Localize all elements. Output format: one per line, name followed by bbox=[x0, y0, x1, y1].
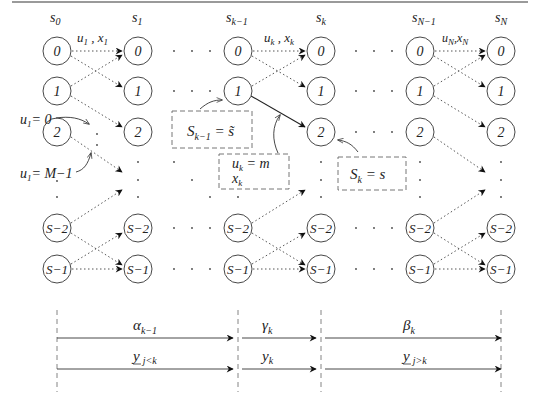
state-nodes bbox=[43, 37, 515, 283]
column-headers: s0 s1 sk−1 sk sN−1 sN bbox=[50, 10, 508, 27]
segment-labels: αk−1 γk βk yj<k yk yj>k bbox=[131, 317, 427, 366]
node-sk-0: 0 bbox=[318, 44, 325, 59]
col-header-s1: s1 bbox=[132, 10, 142, 27]
node-sN-S-1: S−1 bbox=[490, 262, 512, 277]
label-uN-xN: uN,xN bbox=[442, 31, 469, 47]
trellis-svg: s0 s1 sk−1 sk sN−1 sN u1 , x1 uk , xk uN… bbox=[0, 0, 540, 408]
node-sk-S-1: S−1 bbox=[310, 262, 332, 277]
transitions-stage-N bbox=[434, 51, 485, 269]
node-s0-0: 0 bbox=[54, 44, 61, 59]
box-state-label: Sk = s bbox=[350, 166, 386, 185]
annotation-u1-max: u1= M−1 bbox=[20, 166, 73, 183]
node-sk-1: 1 bbox=[318, 84, 325, 99]
label-y-future: yj>k bbox=[401, 348, 427, 366]
node-s1-S-1: S−1 bbox=[127, 262, 149, 277]
node-s0-1: 1 bbox=[54, 84, 61, 99]
box-prev-state-label: Sk−1 = s̃ bbox=[187, 123, 235, 142]
box-input-line2: xk bbox=[231, 171, 243, 188]
label-gamma: γk bbox=[262, 317, 273, 336]
node-sN-0: 0 bbox=[498, 44, 505, 59]
node-sN-1: 1 bbox=[498, 84, 505, 99]
col-header-s0: s0 bbox=[50, 10, 60, 27]
node-sk-S-2: S−2 bbox=[310, 221, 332, 236]
segment-dividers bbox=[57, 310, 501, 392]
node-s0-2: 2 bbox=[54, 125, 61, 140]
segment-arrows bbox=[57, 338, 501, 369]
label-alpha: αk−1 bbox=[133, 317, 157, 336]
node-s0-S-1: S−1 bbox=[46, 262, 68, 277]
node-sN-2: 2 bbox=[498, 125, 505, 140]
label-uk-xk: uk , xk bbox=[264, 30, 295, 47]
box-state-arrow bbox=[338, 140, 358, 152]
node-s1-1: 1 bbox=[135, 84, 142, 99]
label-beta: βk bbox=[402, 317, 415, 336]
node-sN-1-2: 2 bbox=[417, 125, 424, 140]
label-u1-x1: u1 , x1 bbox=[77, 30, 108, 47]
label-y-past: yj<k bbox=[131, 348, 157, 366]
col-header-sk: sk bbox=[316, 10, 326, 27]
node-sk-1-S-2: S−2 bbox=[227, 221, 249, 236]
box-prev-state-arrow bbox=[200, 100, 222, 109]
node-sN-S-2: S−2 bbox=[490, 221, 512, 236]
node-sk-1-1: 1 bbox=[235, 84, 242, 99]
col-header-sN: sN bbox=[495, 10, 508, 27]
node-s1-S-2: S−2 bbox=[127, 221, 149, 236]
top-rule bbox=[12, 1, 528, 3]
label-y-current: yk bbox=[260, 348, 274, 366]
state-node-labels: 0 1 2 S−2 S−1 0 1 2 S−2 S−1 0 1 S−2 S−1 … bbox=[46, 44, 512, 277]
node-sN-1-0: 0 bbox=[417, 44, 424, 59]
node-sN-1-S-2: S−2 bbox=[409, 221, 431, 236]
col-header-sN-1: sN−1 bbox=[412, 10, 436, 27]
node-sN-1-S-1: S−1 bbox=[409, 262, 431, 277]
ellipsis-dots bbox=[56, 50, 502, 270]
node-s1-0: 0 bbox=[135, 44, 142, 59]
node-s0-S-2: S−2 bbox=[46, 221, 68, 236]
node-sk-1-S-1: S−1 bbox=[227, 262, 249, 277]
highlighted-transition bbox=[251, 96, 305, 127]
box-input-arrow bbox=[274, 115, 280, 153]
trellis-diagram: s0 s1 sk−1 sk sN−1 sN u1 , x1 uk , xk uN… bbox=[0, 0, 540, 408]
col-header-sk-1: sk−1 bbox=[226, 10, 248, 27]
node-sk-1-0: 0 bbox=[235, 44, 242, 59]
node-sN-1-1: 1 bbox=[417, 84, 424, 99]
transitions-stage-1 bbox=[71, 51, 122, 269]
node-s1-2: 2 bbox=[135, 125, 142, 140]
annotation-u1-max-arrow bbox=[76, 153, 91, 172]
annotation-u1-zero: u1= 0 bbox=[20, 112, 51, 129]
node-sk-2: 2 bbox=[318, 125, 325, 140]
